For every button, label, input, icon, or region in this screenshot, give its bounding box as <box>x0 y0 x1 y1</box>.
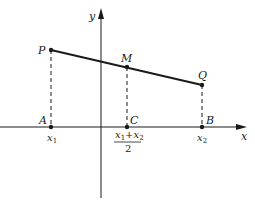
fraction-denominator: 2 <box>125 143 131 154</box>
x-axis-label: x <box>241 130 248 143</box>
y-axis <box>98 8 104 198</box>
label-m: M <box>120 52 133 65</box>
svg-text:x2: x2 <box>197 132 207 145</box>
tick-label-x2: x2 <box>197 132 207 145</box>
tick-label-midpoint-fraction: x1+x2 2 <box>114 129 144 154</box>
label-q: Q <box>198 69 207 82</box>
label-c: C <box>130 114 139 127</box>
point-b <box>200 125 204 129</box>
label-b: B <box>205 114 214 127</box>
point-a <box>49 125 53 129</box>
y-axis-label: y <box>88 10 96 23</box>
label-p: P <box>37 44 46 57</box>
y-axis-arrow-icon <box>98 8 104 19</box>
point-m <box>125 65 129 69</box>
point-q <box>200 83 204 87</box>
svg-text:x1+x2: x1+x2 <box>115 129 144 142</box>
point-p <box>49 48 53 52</box>
midpoint-diagram: x y P M Q A C B x1 x2 x1+x2 2 <box>0 0 255 201</box>
svg-text:x1: x1 <box>47 132 57 145</box>
label-a: A <box>38 114 47 127</box>
tick-label-x1: x1 <box>47 132 57 145</box>
